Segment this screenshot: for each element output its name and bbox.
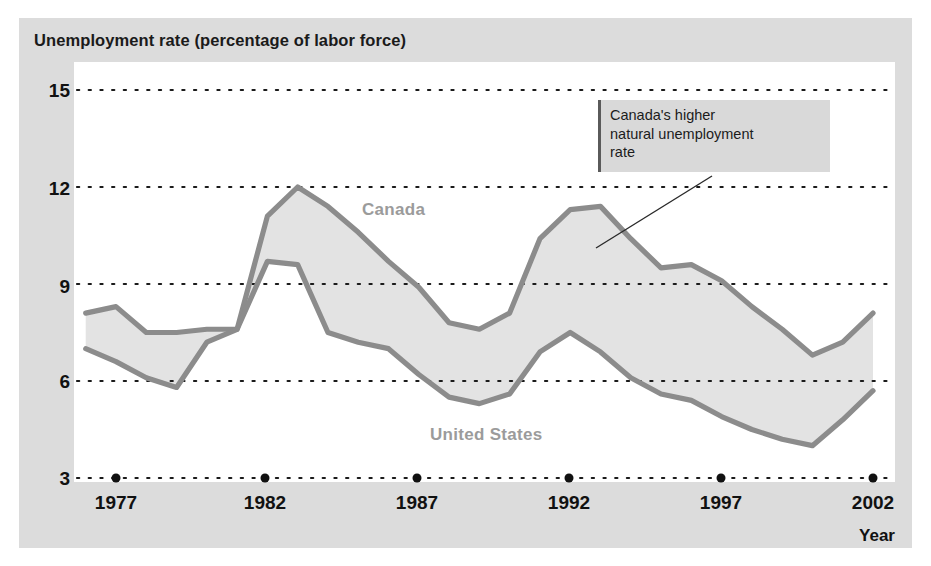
- series-label-canada: Canada: [362, 200, 425, 220]
- x-tick-label: 1987: [396, 492, 438, 514]
- x-tick-marker: [717, 474, 726, 483]
- x-tick-marker: [261, 474, 270, 483]
- annotation-line-2: natural unemployment: [610, 125, 822, 144]
- x-axis-title: Year: [859, 526, 895, 546]
- chart-figure: Unemployment rate (percentage of labor f…: [0, 0, 931, 566]
- annotation-line-1: Canada's higher: [610, 106, 822, 125]
- x-tick-marker: [869, 474, 878, 483]
- annotation-line-3: rate: [610, 143, 822, 162]
- series-label-united-states: United States: [430, 425, 543, 445]
- annotation-callout: Canada's higher natural unemployment rat…: [598, 100, 830, 172]
- x-tick-label: 1997: [700, 492, 742, 514]
- x-tick-marker: [112, 474, 121, 483]
- x-tick-label: 1977: [95, 492, 137, 514]
- x-tick-marker: [413, 474, 422, 483]
- x-tick-marker: [565, 474, 574, 483]
- x-tick-label: 2002: [852, 492, 894, 514]
- x-tick-label: 1992: [548, 492, 590, 514]
- x-axis: 1977 1982 1987 1992 1997 2002: [0, 0, 931, 566]
- x-tick-label: 1982: [244, 492, 286, 514]
